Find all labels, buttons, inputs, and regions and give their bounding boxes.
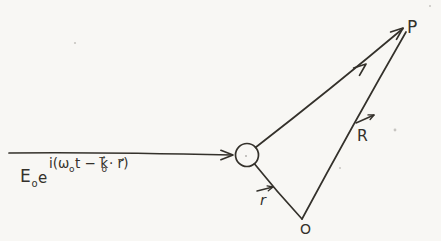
paper-speck — [429, 5, 431, 7]
notebook-page: P O R r E o e i(ω o t − k⃗ o · r⃗) — [0, 0, 441, 241]
point-P-label: P — [407, 17, 417, 37]
formula-exponent-open: i(ω — [49, 155, 69, 171]
vector-r-label: r — [260, 192, 267, 208]
paper-background — [0, 0, 441, 241]
vector-R-label: R — [357, 127, 368, 145]
paper-speck — [74, 42, 76, 44]
paper-speck — [339, 167, 341, 169]
formula-k-subscript: o — [102, 164, 108, 174]
formula-amplitude-subscript: o — [32, 178, 38, 189]
formula-exponent-close: · r⃗) — [109, 155, 128, 171]
paper-speck — [394, 129, 397, 132]
formula-exponential-base: e — [38, 169, 47, 187]
point-O-label: O — [300, 221, 311, 237]
formula-amplitude: E — [20, 166, 31, 186]
scattering-geometry-diagram: P O R r E o e i(ω o t − k⃗ o · r⃗) — [0, 0, 441, 241]
scatterer-center-dot — [245, 155, 247, 157]
